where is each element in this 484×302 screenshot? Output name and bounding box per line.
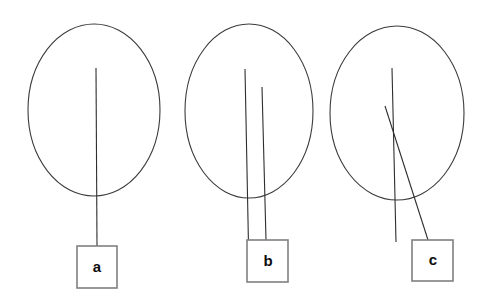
box-label-c: c — [429, 251, 437, 268]
figure-group-a: a — [28, 24, 160, 288]
stem-line-a-1 — [96, 68, 97, 246]
ellipse-a — [28, 24, 160, 196]
ellipse-b — [185, 24, 313, 198]
figure-group-b: b — [185, 24, 313, 282]
box-label-b: b — [263, 252, 272, 269]
stem-line-b-2 — [262, 87, 266, 240]
stem-line-c-diagonal — [385, 106, 428, 240]
figure-group-c: c — [330, 26, 464, 281]
box-label-a: a — [93, 258, 102, 275]
stem-line-c-vertical — [392, 68, 396, 242]
diagram-svg: a b c — [0, 0, 484, 302]
ellipse-c — [330, 26, 464, 200]
diagram-canvas: a b c — [0, 0, 484, 302]
